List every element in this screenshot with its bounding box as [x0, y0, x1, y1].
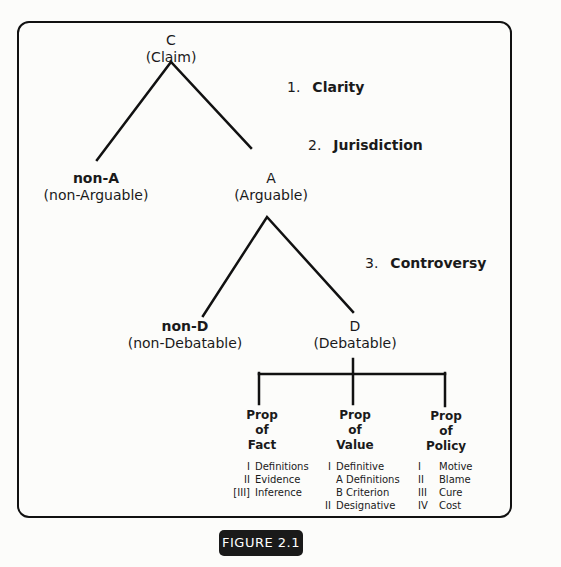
- item-text: Evidence: [255, 473, 301, 486]
- prop-policy-title: Prop of Policy: [426, 409, 466, 454]
- node-non-debatable-desc: (non-Debatable): [128, 335, 243, 352]
- criterion-label: Clarity: [312, 79, 364, 95]
- prop-fact-title-line: Fact: [246, 438, 278, 453]
- node-claim: C (Claim): [146, 32, 197, 66]
- prop-value-title-line: of: [336, 423, 374, 438]
- item-number: [319, 473, 331, 486]
- list-item: IVCost: [418, 499, 473, 512]
- item-text: Inference: [255, 486, 302, 499]
- node-debatable: D (Debatable): [313, 318, 396, 352]
- item-number: I: [319, 460, 331, 473]
- item-text: Definitions: [255, 460, 309, 473]
- item-text: A Definitions: [336, 473, 400, 486]
- item-number: II: [418, 473, 434, 486]
- list-item: IIEvidence: [226, 473, 309, 486]
- item-text: Definitive: [336, 460, 384, 473]
- list-item: IIDesignative: [319, 499, 400, 512]
- item-number: II: [319, 499, 331, 512]
- list-item: B Criterion: [319, 486, 400, 499]
- prop-policy-title-line: Policy: [426, 439, 466, 454]
- prop-fact-title-line: of: [246, 423, 278, 438]
- node-non-arguable-symbol: non-A: [44, 170, 149, 187]
- list-item: IIICure: [418, 486, 473, 499]
- item-number: II: [226, 473, 250, 486]
- criterion-number: 2.: [308, 137, 321, 153]
- item-text: Cost: [439, 499, 461, 512]
- node-debatable-symbol: D: [313, 318, 396, 335]
- node-arguable-symbol: A: [234, 170, 308, 187]
- item-text: Designative: [336, 499, 395, 512]
- item-number: I: [226, 460, 250, 473]
- item-number: [III]: [226, 486, 250, 499]
- item-number: [319, 486, 331, 499]
- node-non-arguable-desc: (non-Arguable): [44, 187, 149, 204]
- list-item: IDefinitive: [319, 460, 400, 473]
- prop-value-title-line: Value: [336, 438, 374, 453]
- item-text: Cure: [439, 486, 462, 499]
- list-item: [III]Inference: [226, 486, 309, 499]
- prop-fact-title-line: Prop: [246, 408, 278, 423]
- prop-policy-title-line: of: [426, 424, 466, 439]
- item-text: Motive: [439, 460, 473, 473]
- prop-policy-title-line: Prop: [426, 409, 466, 424]
- list-item: IDefinitions: [226, 460, 309, 473]
- criterion-clarity: 1.Clarity: [287, 79, 364, 95]
- item-text: Blame: [439, 473, 471, 486]
- item-text: B Criterion: [336, 486, 389, 499]
- criterion-jurisdiction: 2.Jurisdiction: [308, 137, 423, 153]
- prop-value-title-line: Prop: [336, 408, 374, 423]
- list-item: IIBlame: [418, 473, 473, 486]
- criterion-label: Jurisdiction: [333, 137, 422, 153]
- node-claim-desc: (Claim): [146, 49, 197, 66]
- item-number: III: [418, 486, 434, 499]
- list-item: A Definitions: [319, 473, 400, 486]
- item-number: IV: [418, 499, 434, 512]
- node-claim-symbol: C: [146, 32, 197, 49]
- criterion-number: 3.: [365, 255, 378, 271]
- node-non-arguable: non-A (non-Arguable): [44, 170, 149, 204]
- criterion-controversy: 3.Controversy: [365, 255, 486, 271]
- prop-policy-list: IMotive IIBlame IIICure IVCost: [418, 460, 473, 512]
- connector-claim: [97, 62, 251, 160]
- node-non-debatable-symbol: non-D: [128, 318, 243, 335]
- node-arguable: A (Arguable): [234, 170, 308, 204]
- node-debatable-desc: (Debatable): [313, 335, 396, 352]
- figure-label: FIGURE 2.1: [219, 530, 303, 556]
- list-item: IMotive: [418, 460, 473, 473]
- item-number: I: [418, 460, 434, 473]
- prop-fact-list: IDefinitions IIEvidence [III]Inference: [226, 460, 309, 499]
- connector-arguable: [203, 217, 353, 316]
- prop-value-list: IDefinitive A Definitions B Criterion II…: [319, 460, 400, 512]
- prop-value-title: Prop of Value: [336, 408, 374, 453]
- criterion-label: Controversy: [390, 255, 486, 271]
- node-non-debatable: non-D (non-Debatable): [128, 318, 243, 352]
- criterion-number: 1.: [287, 79, 300, 95]
- node-arguable-desc: (Arguable): [234, 187, 308, 204]
- prop-fact-title: Prop of Fact: [246, 408, 278, 453]
